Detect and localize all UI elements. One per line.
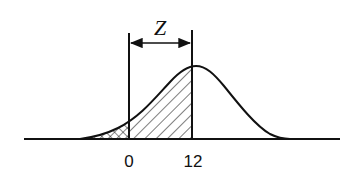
- z-label: Z: [154, 15, 167, 40]
- diagram-svg: Z 0 12: [0, 0, 362, 184]
- normal-curve-diagram: Z 0 12: [0, 0, 362, 184]
- left-tail-region: [80, 122, 129, 139]
- tick-label-12: 12: [184, 152, 203, 171]
- tick-label-0: 0: [124, 152, 133, 171]
- z-interval-region: [129, 67, 192, 139]
